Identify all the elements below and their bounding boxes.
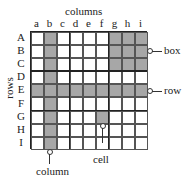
box-divider-v2	[108, 31, 110, 149]
box-divider-v1	[69, 31, 71, 149]
column-label-e: e	[82, 17, 95, 29]
column-label: column	[36, 165, 69, 177]
rows-title: rows	[3, 77, 15, 98]
column-label-i: i	[134, 17, 147, 29]
cell-Bd	[70, 45, 83, 58]
cell-He	[83, 124, 96, 137]
column-pointer-line	[49, 154, 50, 164]
row-label-H: H	[16, 123, 26, 135]
cell-Ee	[83, 84, 96, 97]
cell-Di	[135, 71, 148, 84]
column-label-d: d	[69, 17, 82, 29]
cell-Hd	[70, 124, 83, 137]
column-pointer-icon	[47, 149, 53, 155]
cell-Ie	[83, 137, 96, 150]
cell-Da	[31, 71, 44, 84]
cell-Hi	[135, 124, 148, 137]
box-pointer-line	[152, 51, 162, 52]
cell-Aa	[31, 32, 44, 45]
cell-pointer-line	[102, 128, 103, 143]
cell-Gi	[135, 111, 148, 124]
cell-Eg	[109, 84, 122, 97]
cell-Bg	[109, 45, 122, 58]
box-divider-h1	[30, 70, 147, 72]
cell-label: cell	[93, 153, 109, 165]
cell-Hh	[122, 124, 135, 137]
cell-Gd	[70, 111, 83, 124]
cell-Ba	[31, 45, 44, 58]
column-label-c: c	[56, 17, 69, 29]
cell-Ai	[135, 32, 148, 45]
cell-Gg	[109, 111, 122, 124]
cell-Ig	[109, 137, 122, 150]
row-label-F: F	[16, 97, 26, 109]
cell-Dh	[122, 71, 135, 84]
cell-Bi	[135, 45, 148, 58]
column-label-g: g	[108, 17, 121, 29]
cell-Ea	[31, 84, 44, 97]
row-label-D: D	[16, 70, 26, 82]
cell-Ge	[83, 111, 96, 124]
row-label-B: B	[16, 44, 26, 56]
row-pointer-line	[152, 91, 162, 92]
cell-Dg	[109, 71, 122, 84]
row-label-C: C	[16, 57, 26, 69]
cell-Ga	[31, 111, 44, 124]
row-label-G: G	[16, 110, 26, 122]
box-label: box	[164, 44, 181, 56]
cell-Eb	[44, 84, 57, 97]
cell-Gh	[122, 111, 135, 124]
column-label-f: f	[95, 17, 108, 29]
cell-Ag	[109, 32, 122, 45]
cell-De	[83, 71, 96, 84]
row-label-A: A	[16, 31, 26, 43]
column-label-b: b	[43, 17, 56, 29]
cell-Ib	[44, 137, 57, 150]
cell-Gb	[44, 111, 57, 124]
cell-pointer-icon	[100, 123, 106, 129]
row-label-I: I	[16, 136, 26, 148]
row-label: row	[164, 84, 181, 96]
cell-Hg	[109, 124, 122, 137]
cell-Ih	[122, 137, 135, 150]
cell-Ae	[83, 32, 96, 45]
cell-Ha	[31, 124, 44, 137]
cell-Ed	[70, 84, 83, 97]
cell-Ad	[70, 32, 83, 45]
columns-title: columns	[65, 5, 102, 17]
cell-Bb	[44, 45, 57, 58]
cell-Hb	[44, 124, 57, 137]
column-label-a: a	[30, 17, 43, 29]
cell-Ab	[44, 32, 57, 45]
sudoku-grid	[30, 31, 147, 149]
box-divider-h2	[30, 110, 147, 112]
cell-Bh	[122, 45, 135, 58]
cell-Db	[44, 71, 57, 84]
cell-Id	[70, 137, 83, 150]
row-label-E: E	[16, 83, 26, 95]
cell-Ah	[122, 32, 135, 45]
cell-Ii	[135, 137, 148, 150]
cell-Be	[83, 45, 96, 58]
cell-Eh	[122, 84, 135, 97]
cell-Ia	[31, 137, 44, 150]
column-label-h: h	[121, 17, 134, 29]
cell-Dd	[70, 71, 83, 84]
